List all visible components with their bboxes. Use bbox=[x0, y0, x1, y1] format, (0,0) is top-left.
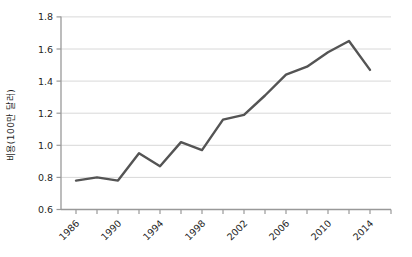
y-tick-label: 1.4 bbox=[38, 76, 53, 87]
x-tick-label: 2010 bbox=[309, 218, 334, 243]
y-tick-label: 1.2 bbox=[38, 108, 53, 119]
y-tick-label: 1.0 bbox=[38, 140, 53, 151]
x-tick-label: 1986 bbox=[57, 218, 82, 243]
y-axis-title: 비용(100만 달러) bbox=[4, 89, 17, 162]
x-tick-label: 2002 bbox=[225, 218, 250, 243]
x-tick-label: 2006 bbox=[267, 218, 292, 243]
x-tick-label: 1990 bbox=[99, 218, 124, 243]
chart-canvas: 0.60.81.01.21.41.61.81986199019941998200… bbox=[0, 0, 412, 257]
y-tick-label: 1.8 bbox=[38, 11, 53, 22]
cost-line-series bbox=[76, 41, 370, 181]
y-tick-label: 1.6 bbox=[38, 44, 53, 55]
x-tick-label: 1994 bbox=[141, 218, 166, 243]
line-chart-figure: 비용(100만 달러) 0.60.81.01.21.41.61.81986199… bbox=[0, 0, 412, 257]
x-tick-label: 1998 bbox=[183, 218, 208, 243]
y-tick-label: 0.6 bbox=[38, 204, 53, 215]
x-tick-label: 2014 bbox=[351, 218, 376, 243]
y-tick-label: 0.8 bbox=[38, 172, 53, 183]
